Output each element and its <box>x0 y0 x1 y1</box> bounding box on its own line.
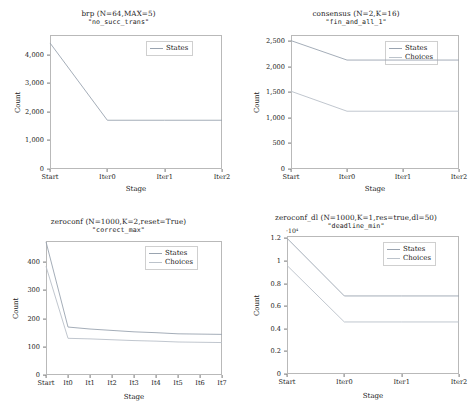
y-tick-label: 4,000 <box>0 51 44 59</box>
y-tick-label: 500 <box>237 139 285 147</box>
x-tick-label: It7 <box>217 379 226 387</box>
series-layer <box>46 241 224 377</box>
x-axis-label: Stage <box>50 185 222 193</box>
x-tick-label: It0 <box>63 379 72 387</box>
chart-title-main: zeroconf (N=1000,K=2,reset=True) <box>0 217 237 226</box>
series-line-states <box>291 41 459 60</box>
series-line-choices <box>46 266 222 342</box>
y-tick-label: 0 <box>0 165 44 173</box>
x-tick-label: Iter2 <box>214 173 231 181</box>
chart-title-consensus: consensus (N=2,K=16) "fin_and_all_1" <box>237 9 475 26</box>
chart-subtitle: "fin_and_all_1" <box>237 18 475 26</box>
chart-subtitle: "no_succ_trans" <box>0 18 237 26</box>
y-tick-label: 2,000 <box>237 63 285 71</box>
chart-panel-zeroconf: zeroconf (N=1000,K=2,reset=True) "correc… <box>0 208 237 416</box>
series-line-choices <box>287 265 459 322</box>
y-tick-label: 1,000 <box>237 114 285 122</box>
chart-title-zeroconf-dl: zeroconf_dl (N=1000,K=1,res=true,dl=50) … <box>237 213 475 230</box>
y-tick-label: 0.2 <box>237 347 281 355</box>
x-tick-label: Iter1 <box>395 173 412 181</box>
x-tick-label: Iter1 <box>156 173 173 181</box>
chart-subtitle: "correct_max" <box>0 226 237 234</box>
y-tick-label: 0.4 <box>237 325 281 333</box>
chart-subtitle: "deadline_min" <box>237 222 475 230</box>
x-tick-label: Start <box>38 379 55 387</box>
x-tick-label: Iter0 <box>99 173 116 181</box>
y-tick-label: 0.6 <box>237 302 281 310</box>
x-tick-label: Start <box>42 173 59 181</box>
x-tick-label: Iter1 <box>393 378 410 386</box>
y-tick-label: 3,000 <box>0 79 44 87</box>
y-tick-label: 0 <box>237 370 281 378</box>
series-layer <box>291 35 461 171</box>
y-tick-label: 1.2 <box>237 234 281 242</box>
x-tick-label: Iter2 <box>451 378 468 386</box>
chart-panel-consensus: consensus (N=2,K=16) "fin_and_all_1" Cou… <box>237 0 475 208</box>
y-tick-label: 1 <box>237 257 281 265</box>
x-tick-label: Iter0 <box>339 173 356 181</box>
x-tick-label: Start <box>279 378 296 386</box>
chart-title-main: consensus (N=2,K=16) <box>237 9 475 18</box>
y-axis-label: Count <box>253 70 261 134</box>
x-axis-label: Stage <box>287 392 459 400</box>
chart-title-brp: brp (N=64,MAX=5) "no_succ_trans" <box>0 9 237 26</box>
x-tick-label: Iter0 <box>336 378 353 386</box>
series-layer <box>50 35 224 171</box>
chart-title-main: zeroconf_dl (N=1000,K=1,res=true,dl=50) <box>237 213 475 222</box>
x-tick-label: It2 <box>107 379 116 387</box>
x-tick-label: It6 <box>195 379 204 387</box>
x-tick-label: Iter2 <box>451 173 468 181</box>
y-tick-label: 200 <box>0 315 40 323</box>
series-layer <box>287 236 461 376</box>
y-tick-label: 400 <box>0 258 40 266</box>
series-line-states <box>46 242 222 335</box>
figure-grid: brp (N=64,MAX=5) "no_succ_trans" Count S… <box>0 0 475 416</box>
x-tick-label: Start <box>283 173 300 181</box>
x-tick-label: It5 <box>173 379 182 387</box>
y-tick-label: 2,000 <box>0 108 44 116</box>
y-tick-label: 0 <box>0 371 40 379</box>
series-line-states <box>50 43 222 120</box>
series-line-states <box>287 238 459 296</box>
y-tick-label: 1,000 <box>0 136 44 144</box>
x-axis-label: Stage <box>46 393 222 401</box>
x-tick-label: It4 <box>151 379 160 387</box>
y-tick-label: 100 <box>0 343 40 351</box>
chart-title-zeroconf: zeroconf (N=1000,K=2,reset=True) "correc… <box>0 217 237 234</box>
y-tick-label: 1,500 <box>237 88 285 96</box>
y-tick-label: 0.8 <box>237 280 281 288</box>
chart-title-main: brp (N=64,MAX=5) <box>0 9 237 18</box>
x-axis-label: Stage <box>291 185 459 193</box>
series-line-choices <box>291 91 459 111</box>
chart-panel-zeroconf-dl: zeroconf_dl (N=1000,K=1,res=true,dl=50) … <box>237 208 475 416</box>
y-tick-label: 0 <box>237 165 285 173</box>
y-tick-label: 2,500 <box>237 37 285 45</box>
chart-panel-brp: brp (N=64,MAX=5) "no_succ_trans" Count S… <box>0 0 237 208</box>
x-tick-label: It3 <box>129 379 138 387</box>
y-axis-exponent: ·10⁴ <box>286 227 298 234</box>
x-tick-label: It1 <box>85 379 94 387</box>
y-tick-label: 300 <box>0 286 40 294</box>
